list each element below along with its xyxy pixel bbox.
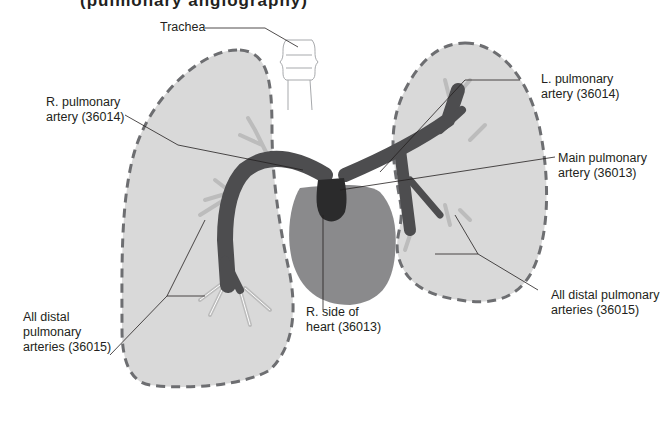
label-trachea: Trachea — [160, 20, 205, 35]
right-lung — [122, 50, 293, 387]
label-l-pulmonary-artery: L. pulmonary artery (36014) — [541, 72, 620, 102]
label-main-pulmonary-artery: Main pulmonary artery (36013) — [558, 151, 647, 181]
label-distal-left: All distal pulmonary arteries (36015) — [23, 310, 111, 355]
label-r-pulmonary-artery: R. pulmonary artery (36014) — [46, 95, 125, 125]
trachea — [280, 40, 318, 110]
label-distal-right: All distal pulmonary arteries (36015) — [551, 288, 659, 318]
pulmonary-anatomy-diagram — [0, 0, 668, 428]
main-pulmonary-artery — [317, 178, 347, 221]
label-r-side-of-heart: R. side of heart (36013) — [306, 305, 381, 335]
